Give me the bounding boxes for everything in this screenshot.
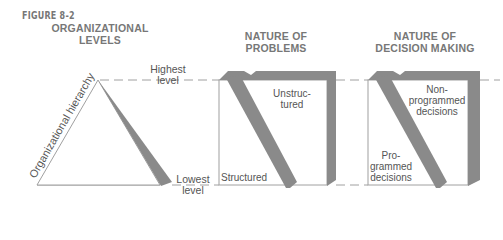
unstructured-label: Unstruc- tured <box>262 88 322 110</box>
highest-level-label: Highest level <box>138 64 198 86</box>
lowest-level-label: Lowest level <box>168 174 218 196</box>
programmed-decisions-label: Pro- grammed decisions <box>365 150 417 183</box>
structured-label: Structured <box>221 172 283 183</box>
nonprogrammed-decisions-label: Non- programmed decisions <box>404 84 470 117</box>
